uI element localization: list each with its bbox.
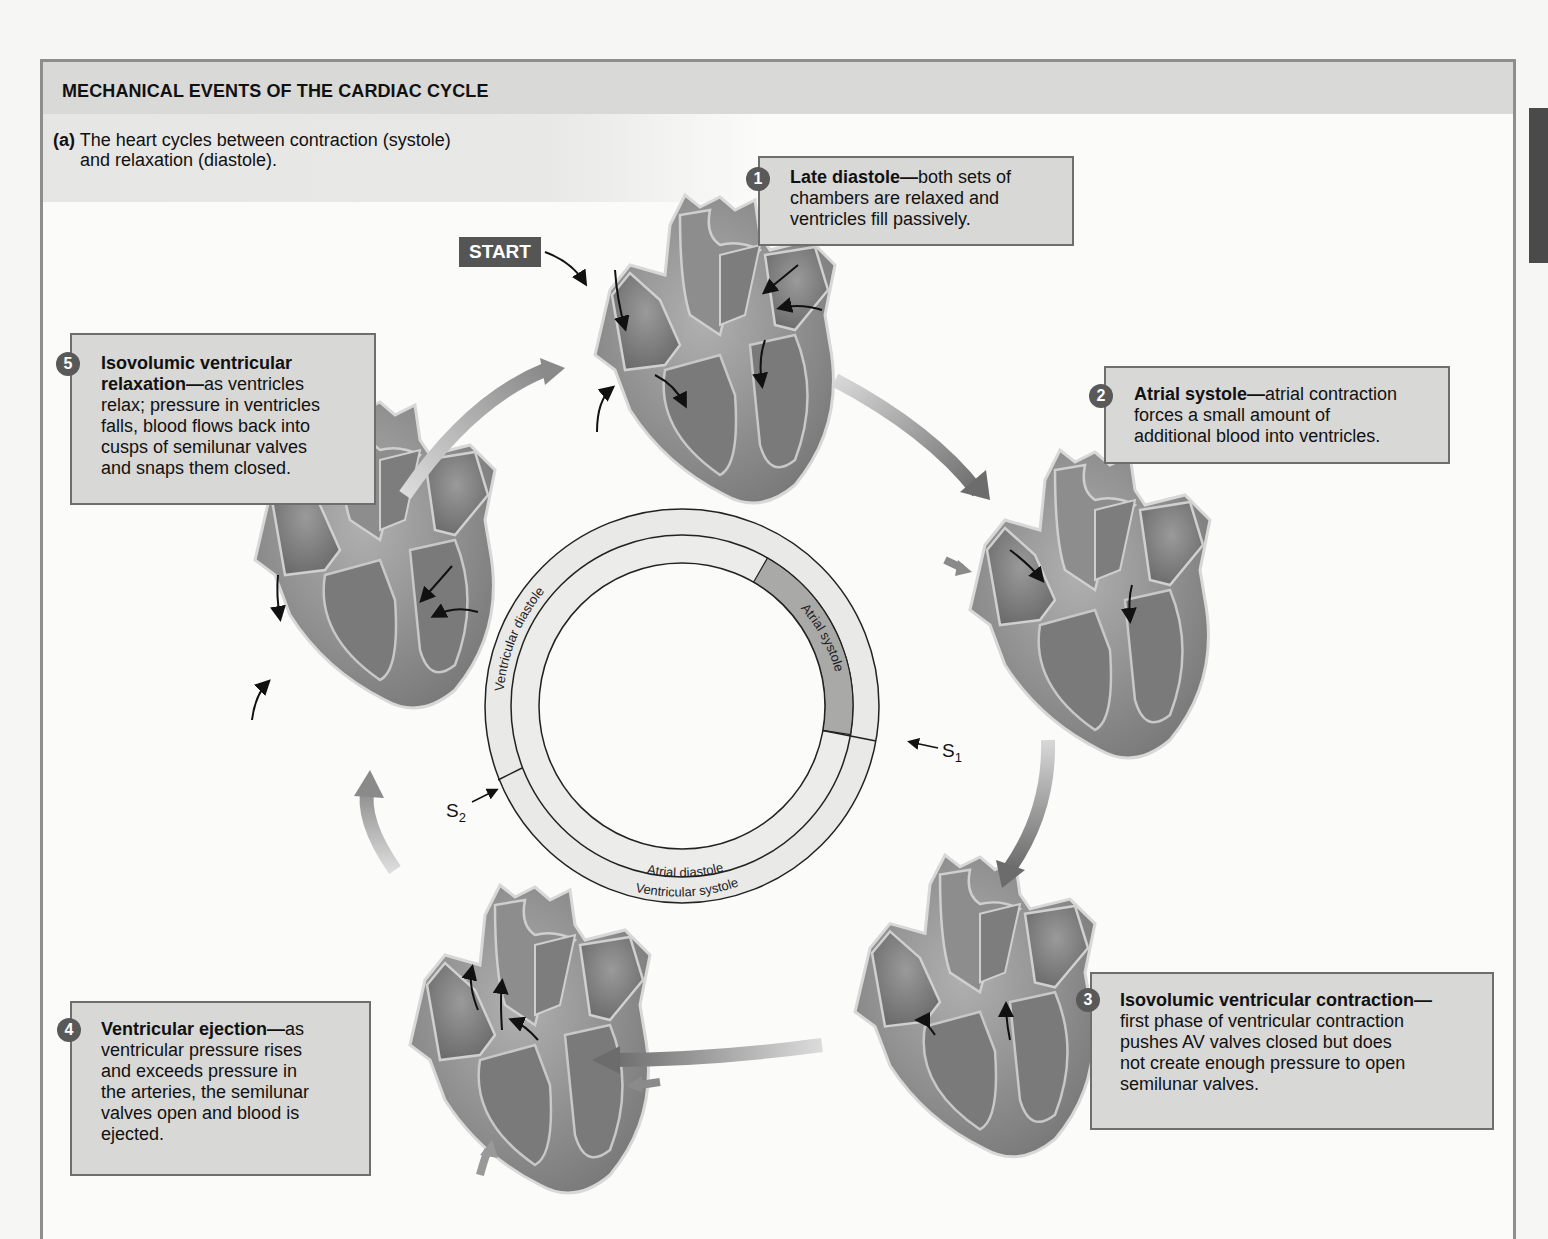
step-4-line: ventricular pressure rises bbox=[101, 1040, 302, 1060]
callout-atrial-systole: Atrial systole—atrial contraction forces… bbox=[1104, 366, 1450, 464]
step-3-line: not create enough pressure to open bbox=[1120, 1053, 1405, 1073]
step-2-badge: 2 bbox=[1089, 384, 1113, 408]
cardiac-cycle-ring: Ventricular diastole Ventricular systole… bbox=[472, 509, 938, 903]
step-4-badge: 4 bbox=[57, 1018, 81, 1042]
step-1-line: chambers are relaxed and bbox=[790, 188, 999, 208]
step-2-heading: Atrial systole bbox=[1134, 384, 1247, 404]
heart-ventricular-ejection bbox=[410, 885, 650, 1193]
step-5-line: cusps of semilunar valves bbox=[101, 437, 307, 457]
step-5-line: as ventricles bbox=[204, 374, 304, 394]
step-3-line: first phase of ventricular contraction bbox=[1120, 1011, 1404, 1031]
step-2-line: atrial contraction bbox=[1265, 384, 1397, 404]
step-4-line: valves open and blood is bbox=[101, 1103, 299, 1123]
step-1-line: both sets of bbox=[918, 167, 1011, 187]
step-3-line: semilunar valves. bbox=[1120, 1074, 1259, 1094]
step-5-heading: relaxation bbox=[101, 374, 186, 394]
start-label: START bbox=[459, 237, 541, 267]
step-4-line: ejected. bbox=[101, 1124, 164, 1144]
step-5-heading: Isovolumic ventricular bbox=[101, 353, 292, 373]
step-3-badge: 3 bbox=[1076, 988, 1100, 1012]
step-3-line: pushes AV valves closed but does bbox=[1120, 1032, 1392, 1052]
step-3-heading: Isovolumic ventricular contraction bbox=[1120, 990, 1414, 1010]
callout-isovolumic-contraction: Isovolumic ventricular contraction— firs… bbox=[1090, 972, 1494, 1130]
step-1-line: ventricles fill passively. bbox=[790, 209, 971, 229]
heart-sound-s2: S2 bbox=[446, 800, 466, 825]
step-4-line: and exceeds pressure in bbox=[101, 1061, 297, 1081]
step-5-line: relax; pressure in ventricles bbox=[101, 395, 320, 415]
heart-atrial-systole bbox=[970, 450, 1210, 758]
step-4-line: the arteries, the semilunar bbox=[101, 1082, 309, 1102]
step-2-line: forces a small amount of bbox=[1134, 405, 1330, 425]
heart-isovolumic-contraction bbox=[855, 855, 1095, 1157]
step-5-badge: 5 bbox=[56, 352, 80, 376]
step-1-badge: 1 bbox=[746, 167, 770, 191]
step-4-heading: Ventricular ejection bbox=[101, 1019, 267, 1039]
step-4-line: as bbox=[285, 1019, 304, 1039]
callout-isovolumic-relaxation: Isovolumic ventricular relaxation—as ven… bbox=[70, 333, 376, 505]
step-1-heading: Late diastole bbox=[790, 167, 900, 187]
callout-ventricular-ejection: Ventricular ejection—as ventricular pres… bbox=[70, 1001, 371, 1176]
step-5-line: falls, blood flows back into bbox=[101, 416, 310, 436]
step-5-line: and snaps them closed. bbox=[101, 458, 291, 478]
step-2-line: additional blood into ventricles. bbox=[1134, 426, 1380, 446]
callout-late-diastole: Late diastole—both sets of chambers are … bbox=[758, 156, 1074, 246]
heart-sound-s1: S1 bbox=[942, 740, 962, 765]
